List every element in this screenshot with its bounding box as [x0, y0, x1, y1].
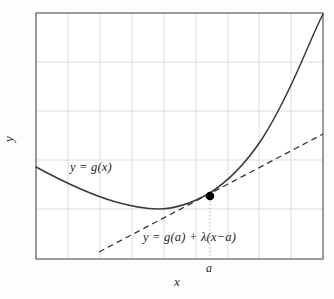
plot-canvas: [0, 0, 334, 299]
curve-label-g-of-x: y = g(x): [70, 160, 112, 175]
figure-container: y x y = g(x) y = g(a) + λ(x−a) a: [0, 0, 334, 299]
tangent-line-label: y = g(a) + λ(x−a): [143, 230, 236, 245]
y-axis-label: y: [1, 136, 17, 142]
x-axis-label: x: [174, 274, 180, 290]
plot-background: [36, 13, 323, 259]
tangency-point-marker: [206, 192, 215, 201]
x-tick-label-a: a: [206, 261, 212, 276]
